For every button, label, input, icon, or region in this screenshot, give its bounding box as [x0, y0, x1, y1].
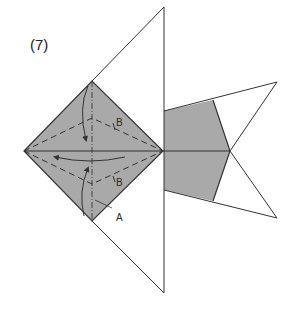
label-b-upper: B — [116, 117, 123, 128]
label-a: A — [116, 212, 123, 223]
origami-diagram: B B A — [0, 0, 294, 318]
label-b-lower: B — [116, 177, 123, 188]
